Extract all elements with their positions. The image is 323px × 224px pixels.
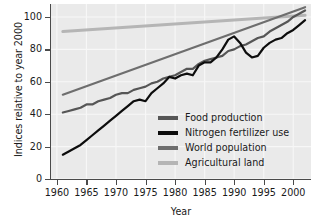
y-tick-label: 80 bbox=[2, 44, 42, 54]
x-tick-label: 2000 bbox=[273, 188, 313, 198]
y-tick-mark bbox=[45, 179, 50, 180]
legend-item: World population bbox=[158, 140, 289, 155]
legend-swatch-icon bbox=[158, 116, 178, 120]
legend-item-label: Nitrogen fertilizer use bbox=[185, 128, 289, 138]
x-tick-mark bbox=[175, 180, 176, 185]
series-line bbox=[63, 15, 305, 31]
legend-item-label: Food production bbox=[185, 113, 263, 123]
x-tick-mark bbox=[234, 180, 235, 185]
y-tick-label: 60 bbox=[2, 77, 42, 87]
legend-swatch-icon bbox=[158, 131, 178, 135]
series-line bbox=[63, 10, 305, 112]
x-tick-mark bbox=[146, 180, 147, 185]
y-tick-label: 40 bbox=[2, 109, 42, 119]
x-tick-mark bbox=[205, 180, 206, 185]
y-tick-mark bbox=[45, 147, 50, 148]
legend-item: Food production bbox=[158, 110, 289, 125]
chart-legend: Food productionNitrogen fertilizer useWo… bbox=[158, 110, 289, 170]
y-tick-mark bbox=[45, 17, 50, 18]
legend-swatch-icon bbox=[158, 161, 178, 165]
y-tick-mark bbox=[45, 49, 50, 50]
legend-swatch-icon bbox=[158, 146, 178, 150]
x-axis-title: Year bbox=[50, 206, 312, 217]
x-tick-mark bbox=[57, 180, 58, 185]
y-tick-label: 20 bbox=[2, 142, 42, 152]
y-tick-mark bbox=[45, 114, 50, 115]
x-tick-mark bbox=[293, 180, 294, 185]
legend-item-label: Agricultural land bbox=[185, 158, 264, 168]
chart-figure: Indices relative to year 2000 0204060801… bbox=[0, 0, 323, 224]
y-tick-label: 100 bbox=[2, 12, 42, 22]
y-axis-line bbox=[50, 4, 51, 180]
x-tick-mark bbox=[86, 180, 87, 185]
x-tick-mark bbox=[116, 180, 117, 185]
x-axis-line bbox=[50, 179, 311, 180]
y-tick-mark bbox=[45, 82, 50, 83]
y-tick-label: 0 bbox=[2, 174, 42, 184]
legend-item: Agricultural land bbox=[158, 155, 289, 170]
legend-item-label: World population bbox=[185, 143, 267, 153]
legend-item: Nitrogen fertilizer use bbox=[158, 125, 289, 140]
x-tick-mark bbox=[264, 180, 265, 185]
